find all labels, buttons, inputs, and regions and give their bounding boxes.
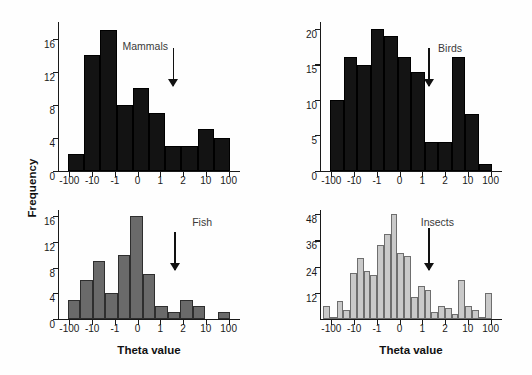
histogram-bar [398, 57, 412, 170]
histogram-bar [343, 310, 350, 319]
plot-area-birds: 05101520-100-10-101210100Birds [320, 22, 502, 172]
x-tick-label: -10 [85, 323, 99, 334]
x-tick-label: -100 [59, 175, 79, 186]
x-tick-label: 10 [462, 175, 473, 186]
x-tick-label: -1 [110, 323, 119, 334]
x-tick-label: -1 [372, 323, 381, 334]
histogram-bar [68, 154, 84, 171]
histogram-bar [479, 164, 493, 171]
y-tick-label: 8 [49, 267, 55, 278]
arrow-head [424, 263, 434, 271]
y-tick-label: 16 [44, 216, 55, 227]
bar-series-insects [320, 210, 502, 319]
histogram-bar [384, 234, 391, 319]
histogram-bar [344, 57, 358, 170]
histogram-bar [143, 274, 155, 319]
y-tick-label: 4 [49, 137, 55, 148]
y-tick-label: 20 [306, 29, 317, 40]
x-tick-label: 100 [482, 323, 499, 334]
y-tick-label: 0 [311, 170, 317, 181]
y-tick-label: 8 [49, 104, 55, 115]
x-tick-label: -100 [321, 175, 341, 186]
x-tick-label: 0 [135, 323, 141, 334]
histogram-panel-fish: 0481216-100-10-101210100Fish [58, 210, 240, 320]
histogram-panel-insects: 12243648-100-10-101210100Insects [320, 210, 502, 320]
histogram-bar [425, 290, 432, 318]
y-tick-label: 12 [44, 71, 55, 82]
x-tick-label: 0 [135, 175, 141, 186]
histogram-bar [458, 280, 465, 319]
histogram-bar [168, 312, 180, 318]
arrow-head [168, 79, 178, 87]
histogram-bar [384, 36, 398, 171]
histogram-bar [337, 301, 344, 318]
histogram-bar [418, 286, 425, 319]
histogram-bar [155, 306, 167, 319]
histogram-bar [465, 114, 479, 171]
x-tick-label: 1 [158, 323, 164, 334]
x-tick-label: -10 [347, 323, 361, 334]
histogram-bar [425, 142, 439, 170]
histogram-bar [411, 72, 425, 171]
histogram-bar [472, 310, 479, 319]
histogram-bar [411, 297, 418, 319]
y-tick-label: 5 [311, 135, 317, 146]
histogram-bar [445, 308, 452, 319]
histogram-panel-birds: 05101520-100-10-101210100Birds [320, 22, 502, 172]
histogram-bar [323, 306, 330, 319]
histogram-bar [452, 314, 459, 318]
x-tick-label: 0 [397, 175, 403, 186]
histogram-bar [181, 146, 197, 171]
arrow-head [170, 263, 180, 271]
histogram-bar [357, 258, 364, 319]
x-tick-label: 1 [420, 323, 426, 334]
histogram-bar [330, 100, 344, 171]
histogram-panel-mammals: 0481216-100-10-101210100Mammals [58, 22, 240, 172]
figure-panel-grid: Frequency 0481216-100-10-101210100Mammal… [0, 0, 532, 375]
histogram-bar [404, 256, 411, 319]
x-axis-line [58, 319, 240, 320]
histogram-bar [350, 273, 357, 319]
arrow-head [424, 79, 434, 87]
x-tick-label: 0 [397, 323, 403, 334]
histogram-bar [364, 271, 371, 319]
y-tick-label: 12 [44, 241, 55, 252]
x-tick-label: 100 [482, 175, 499, 186]
x-tick-label: 10 [200, 175, 211, 186]
x-axis-line [320, 319, 502, 320]
histogram-bar [93, 261, 105, 319]
x-tick-label: 2 [442, 175, 448, 186]
histogram-bar [431, 312, 438, 319]
y-tick-label: 16 [44, 38, 55, 49]
histogram-bar [133, 88, 149, 171]
histogram-bar [371, 29, 385, 171]
x-axis-label: Theta value [379, 344, 442, 356]
x-tick-label: 1 [158, 175, 164, 186]
x-axis-label: Theta value [117, 344, 180, 356]
histogram-bar [452, 57, 466, 170]
histogram-bar [397, 253, 404, 318]
histogram-bar [214, 138, 230, 171]
panel-title-fish: Fish [192, 216, 212, 228]
plot-area-mammals: 0481216-100-10-101210100Mammals [58, 22, 240, 172]
y-tick-label: 0 [49, 170, 55, 181]
histogram-bar [479, 317, 486, 319]
y-tick-label: 4 [49, 293, 55, 304]
histogram-bar [118, 255, 130, 319]
y-tick-label: 10 [306, 99, 317, 110]
x-tick-label: -10 [85, 175, 99, 186]
bar-series-birds [320, 22, 502, 171]
histogram-bar [218, 312, 230, 318]
x-tick-label: -100 [321, 323, 341, 334]
histogram-bar [100, 30, 116, 170]
x-tick-label: -1 [110, 175, 119, 186]
histogram-bar [198, 129, 214, 170]
x-tick-label: 100 [220, 323, 237, 334]
histogram-bar [485, 293, 492, 319]
x-tick-label: 100 [220, 175, 237, 186]
histogram-bar [149, 113, 165, 171]
panel-title-mammals: Mammals [122, 40, 168, 52]
x-tick-label: 10 [200, 323, 211, 334]
panel-title-insects: Insects [421, 216, 454, 228]
histogram-bar [130, 216, 142, 318]
